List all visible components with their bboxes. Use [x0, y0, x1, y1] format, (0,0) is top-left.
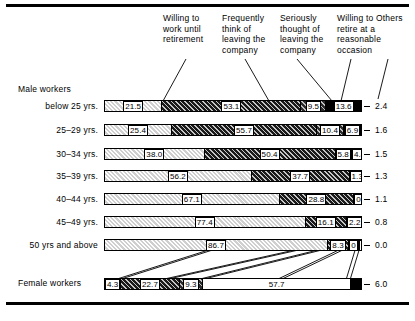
bar-segment: 2.2: [346, 217, 362, 227]
others-tick: [364, 284, 370, 285]
row-label: 50 yrs and above: [2, 240, 98, 250]
segment-value: 55.7: [234, 125, 254, 136]
segment-value: 67.1: [182, 194, 202, 205]
segment-value: 50.4: [260, 149, 280, 160]
segment-value: 53.1: [221, 101, 241, 112]
segment-value: 1.3: [350, 171, 362, 182]
segment-value: 28.8: [306, 194, 326, 205]
row-label: 45–49 yrs.: [2, 217, 98, 227]
bar-segment: 9.3: [179, 279, 203, 289]
others-value: 1.1: [375, 194, 387, 204]
others-tick: [364, 245, 370, 246]
bar-segment: 37.7: [251, 171, 349, 181]
segment-value: 6.9: [345, 125, 360, 136]
bar-segment: 67.1: [105, 194, 279, 204]
segment-value: 37.7: [290, 171, 310, 182]
segment-value: 8.3: [330, 240, 345, 251]
segment-value: 22.7: [140, 279, 160, 290]
bar-segment: 38.0: [105, 149, 204, 159]
segment-value: 2.2: [347, 217, 362, 228]
segment-value: 21.5: [123, 101, 143, 112]
bar-segment: 4.3: [105, 279, 120, 289]
bar-segment: 50.4: [204, 149, 335, 159]
group-label-female-workers: Female workers: [18, 278, 81, 288]
segment-value: 4.4: [352, 149, 362, 160]
bar-segment: 77.4: [105, 217, 305, 227]
stacked-bar: 38.050.45.84.4: [104, 148, 362, 160]
others-value: 2.4: [375, 101, 387, 111]
segment-value: 56.2: [168, 171, 188, 182]
stacked-bar: 77.416.12.23.6: [104, 216, 362, 228]
others-value: 1.5: [375, 149, 387, 159]
segment-value: 86.7: [206, 240, 226, 251]
others-value: 6.0: [375, 279, 387, 289]
others-tick: [364, 154, 370, 155]
bar-segment: 10.4: [316, 125, 343, 135]
row-label: 35–39 yrs.: [2, 171, 98, 181]
others-tick: [364, 130, 370, 131]
others-value: 0.8: [375, 217, 387, 227]
bar-segment: 25.4: [105, 125, 171, 135]
row-label: below 25 yrs.: [2, 101, 98, 111]
segment-value: 16.1: [316, 217, 336, 228]
bar-segment: 4.4: [351, 149, 362, 159]
segment-value: 5.8: [336, 149, 351, 160]
bar-segment: 53.1: [161, 101, 300, 111]
bar-segment: 5.0: [358, 240, 362, 250]
segment-value: 10.4: [320, 125, 340, 136]
stacked-bar: 25.455.710.46.9: [104, 124, 362, 136]
row-label: 30–34 yrs.: [2, 149, 98, 159]
group-label-male-workers: Male workers: [18, 84, 71, 94]
row-label: 40–44 yrs.: [2, 194, 98, 204]
segment-value: 4.3: [105, 279, 120, 290]
others-value: 1.6: [375, 125, 387, 135]
others-tick: [364, 176, 370, 177]
stacked-bar: 21.553.19.513.6: [104, 100, 362, 112]
leader-lines: [0, 0, 415, 321]
segment-value: 9.5: [306, 101, 321, 112]
bar-segment: 28.8: [279, 194, 354, 204]
others-value: 1.3: [375, 171, 387, 181]
segment-value: 25.4: [128, 125, 148, 136]
segment-value: 5.0: [359, 240, 362, 251]
row-label: 25–29 yrs.: [2, 125, 98, 135]
segment-value: 38.0: [144, 149, 164, 160]
others-tick: [364, 199, 370, 200]
stacked-bar: 56.237.71.33.5: [104, 170, 362, 182]
bar-segment: 56.2: [105, 171, 251, 181]
segment-value: 0: [349, 240, 358, 251]
segment-value: 57.7: [269, 280, 285, 289]
others-tick: [364, 106, 370, 107]
bar-segment: 9.5: [300, 101, 325, 111]
segment-value: 13.6: [334, 101, 354, 112]
bar-segment: 13.6: [325, 101, 361, 111]
bar-segment: 21.5: [105, 101, 161, 111]
bar-segment: 22.7: [120, 279, 178, 289]
bar-segment: 86.7: [105, 240, 327, 250]
bar-segment: 5.8: [335, 149, 351, 159]
stacked-bar: 67.128.80.72.3: [104, 193, 362, 205]
bar-segment: 0.7: [353, 194, 362, 204]
stacked-bar: 86.78.305.0: [104, 239, 362, 251]
bar-segment: 1.3: [349, 171, 362, 181]
bar-segment: 8.3: [327, 240, 348, 250]
stacked-bar: 4.322.79.357.7: [104, 278, 362, 290]
segment-value: 9.3: [183, 279, 198, 290]
segment-value: 0.7: [354, 194, 362, 205]
others-value: 0.0: [375, 240, 387, 250]
bar-segment: 16.1: [305, 217, 347, 227]
bar-segment: [350, 279, 362, 289]
bar-segment: 6.9: [343, 125, 361, 135]
segment-value: 77.4: [195, 217, 215, 228]
bar-segment: 0: [348, 240, 358, 250]
bar-segment: 57.7: [202, 279, 350, 289]
bar-segment: 55.7: [171, 125, 316, 135]
others-tick: [364, 222, 370, 223]
